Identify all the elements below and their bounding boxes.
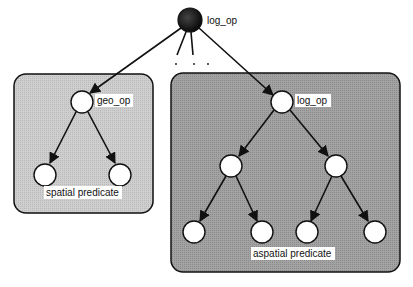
ellipsis-dots: [175, 63, 209, 65]
query-tree-diagram: log_op geo_op spatial predicate log_op a…: [0, 0, 413, 287]
geo-op-label: geo_op: [97, 95, 131, 106]
spatial-predicate-label: spatial predicate: [46, 187, 119, 198]
aspatial-predicate-caption: aspatial predicate: [251, 247, 335, 260]
spatial-predicate-caption: spatial predicate: [44, 186, 122, 199]
root-log-op-node: log_op: [178, 8, 237, 32]
inner-log-op-label: log_op: [297, 95, 327, 106]
aspatial-predicate-label: aspatial predicate: [253, 248, 332, 259]
root-log-op-label: log_op: [207, 15, 237, 26]
